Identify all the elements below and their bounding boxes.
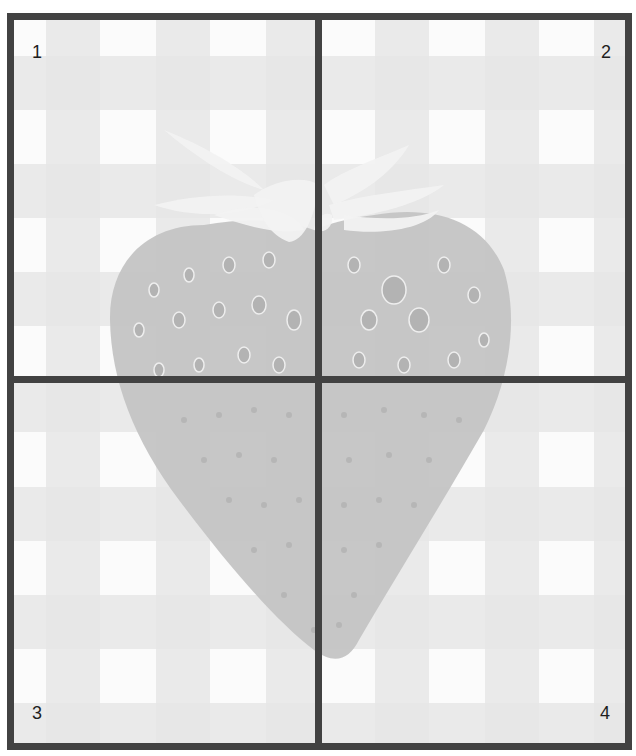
quadrant-label-1: 1 — [32, 43, 42, 61]
quadrant-label-3: 3 — [32, 704, 42, 722]
strawberry-body — [110, 212, 511, 659]
image-frame: 1 2 3 4 — [7, 13, 632, 750]
quadrant-label-4: 4 — [600, 704, 610, 722]
horizontal-grid-line — [14, 376, 625, 383]
quadrant-label-2: 2 — [601, 43, 611, 61]
